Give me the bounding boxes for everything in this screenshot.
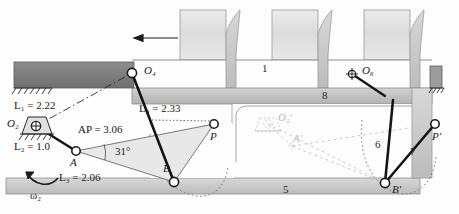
label-L2: L₂ = 1.0 — [14, 141, 50, 152]
joint-B — [169, 177, 178, 186]
lower-cell-bed — [232, 104, 432, 162]
label-L1: L₁ = 2.22 — [14, 100, 56, 111]
label-link-6: 6 — [375, 139, 381, 150]
label-L3: L₃ = 2.06 — [59, 172, 101, 183]
joint-A — [72, 147, 80, 155]
ground-hatch-left — [12, 88, 52, 94]
joint-Pprime — [431, 120, 439, 128]
joint-Bprime — [380, 178, 389, 187]
label-AP: AP = 3.06 — [78, 124, 123, 135]
joint-P — [210, 120, 218, 128]
label-joint-O4: O₄ — [144, 65, 156, 76]
label-joint-B: B — [163, 163, 170, 174]
ground-block-right — [429, 66, 444, 93]
label-joint-O2: O₂ — [7, 118, 19, 129]
label-joint-A-prime: A′ — [293, 133, 302, 144]
upper-dark-beam — [14, 62, 134, 88]
label-joint-P-prime: P′ — [432, 131, 441, 142]
label-link-8: 8 — [322, 90, 328, 101]
motion-arrow — [134, 35, 178, 42]
conveyor-bed — [132, 60, 432, 90]
label-angle-31: 31° — [115, 146, 130, 157]
figure-canvas: L₁ = 2.22 L₂ = 1.0 L₃ = 2.06 L₄ = 2.33 A… — [0, 0, 459, 214]
workpiece-boxes — [180, 10, 410, 60]
label-joint-A: A — [70, 157, 77, 168]
joint-O4 — [127, 68, 136, 77]
label-link-1: 1 — [262, 63, 268, 74]
label-joint-O6: O₆ — [362, 65, 374, 76]
fixed-pivot-O2 — [19, 117, 54, 140]
label-joint-O2-prime: O₂′ — [278, 112, 292, 123]
label-omega2: ω₂ — [30, 190, 41, 201]
label-link-7: 7 — [410, 146, 416, 157]
label-joint-P: P — [210, 131, 217, 142]
label-L4: L₄ = 2.33 — [139, 103, 181, 114]
label-link-5: 5 — [283, 184, 289, 195]
label-joint-B-prime: B′ — [392, 184, 401, 195]
